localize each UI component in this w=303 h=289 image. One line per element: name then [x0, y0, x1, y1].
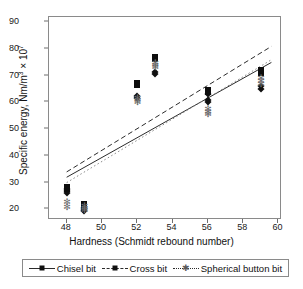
x-tick-label: 50 [86, 223, 116, 232]
y-tick-label: 40 [0, 150, 19, 159]
plot-area: ✻✻✻✻✻✻✻✻✻✻✻✻✻✻✻✻✻ [48, 16, 281, 219]
trend-line-chisel-bit [67, 62, 272, 177]
diamond-marker-icon [39, 266, 44, 271]
y-tick-label: 80 [0, 44, 19, 53]
y-tick-mark [44, 208, 48, 209]
x-tick-mark [172, 219, 173, 223]
data-point-star: ✻ [204, 105, 211, 112]
y-axis-title-prefix: Specific energy, Nm/m [18, 75, 29, 175]
x-tick-label: 58 [227, 223, 257, 232]
data-point-star: ✻ [151, 59, 158, 66]
legend-key-spherical: ✱ [173, 263, 199, 273]
legend-item-cross-bit[interactable]: Cross bit [102, 263, 167, 274]
chart-legend: Chisel bit Cross bit ✱ Spherical button … [22, 259, 289, 277]
data-point-star: ✻ [257, 75, 264, 82]
x-tick-mark [101, 219, 102, 223]
x-tick-mark [207, 219, 208, 223]
y-tick-label: 30 [0, 177, 19, 186]
trend-line-cross-bit [67, 46, 272, 172]
legend-key-cross [102, 263, 128, 273]
y-axis-title-mid: × 10 [18, 49, 29, 72]
data-point-square [134, 80, 140, 86]
y-tick-label: 20 [0, 204, 19, 213]
x-tick-mark [66, 219, 67, 223]
legend-label-chisel: Chisel bit [57, 263, 96, 274]
data-point-star: ✻ [81, 203, 88, 210]
y-tick-label: 70 [0, 70, 19, 79]
square-marker-icon [112, 266, 117, 271]
x-tick-mark [242, 219, 243, 223]
y-tick-label: 60 [0, 97, 19, 106]
plot-inner: ✻✻✻✻✻✻✻✻✻✻✻✻✻✻✻✻✻ [49, 17, 280, 218]
chart-figure: Specific energy, Nm/m3 × 107 Hardness (S… [0, 0, 303, 289]
legend-item-chisel-bit[interactable]: Chisel bit [29, 263, 96, 274]
y-tick-label: 90 [0, 17, 19, 26]
data-point-square [205, 87, 211, 93]
data-point-square [64, 184, 70, 190]
y-tick-mark [44, 21, 48, 22]
y-tick-mark [44, 101, 48, 102]
x-tick-label: 48 [51, 223, 81, 232]
legend-item-spherical-button-bit[interactable]: ✱ Spherical button bit [173, 263, 282, 274]
x-tick-mark [136, 219, 137, 223]
legend-key-chisel [29, 263, 55, 273]
legend-label-spherical: Spherical button bit [201, 263, 282, 274]
y-tick-label: 50 [0, 124, 19, 133]
legend-label-cross: Cross bit [130, 263, 167, 274]
x-tick-label: 52 [121, 223, 151, 232]
trend-lines-group [49, 17, 280, 218]
x-tick-label: 56 [192, 223, 222, 232]
y-tick-mark [44, 128, 48, 129]
data-point-star: ✻ [134, 94, 141, 101]
star-marker-icon: ✱ [182, 264, 190, 273]
y-tick-mark [44, 74, 48, 75]
x-tick-mark [277, 219, 278, 223]
trend-line-spherical-button-bit [67, 60, 272, 183]
x-tick-label: 54 [157, 223, 187, 232]
y-tick-mark [44, 48, 48, 49]
x-tick-label: 60 [262, 223, 292, 232]
y-tick-mark [44, 154, 48, 155]
x-axis-title: Hardness (Schmidt rebound number) [0, 236, 303, 247]
y-tick-mark [44, 181, 48, 182]
data-point-star: ✻ [63, 199, 70, 206]
